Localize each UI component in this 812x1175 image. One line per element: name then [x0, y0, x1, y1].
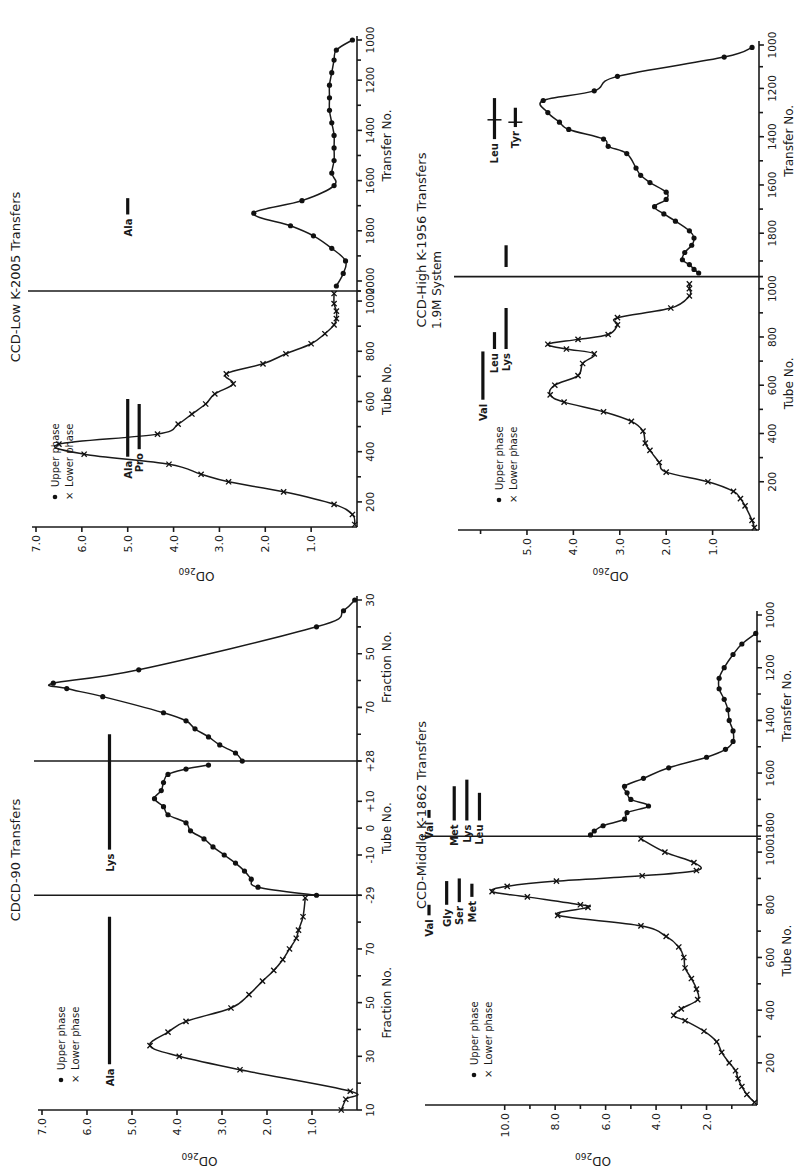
lower-phase-point	[331, 322, 336, 327]
upper-phase-point	[687, 228, 692, 233]
y-tick-label: 5.0	[126, 1118, 139, 1136]
amino-acid-label: Gly	[442, 908, 453, 927]
upper-phase-point	[183, 718, 188, 723]
lower-phase-point	[739, 1084, 744, 1089]
upper-phase-point	[545, 110, 550, 115]
upper-phase-point	[249, 877, 254, 882]
upper-phase-point	[152, 796, 157, 801]
upper-phase-point	[664, 197, 669, 202]
y-tick-label: 7.0	[36, 1118, 49, 1136]
upper-phase-point	[638, 173, 643, 178]
x-tick-label: 1200	[764, 654, 776, 681]
legend-upper-label: Upper phase	[469, 1001, 480, 1065]
upper-phase-point	[311, 233, 316, 238]
x-tick-label: 1600	[764, 760, 776, 787]
x-tick-label: 600	[764, 947, 776, 967]
lower-phase-point	[287, 946, 292, 951]
lower-phase-point	[733, 1068, 738, 1073]
upper-phase-point	[161, 804, 166, 809]
y-tick-label: 1.0	[305, 535, 318, 553]
chart-ccd-middle-k: CCD-Middle K-1862 Transfers2.04.06.08.01…	[406, 585, 812, 1175]
upper-phase-point	[592, 828, 597, 833]
upper-phase-point	[341, 608, 346, 613]
upper-phase-point	[717, 686, 722, 691]
x-tick-label: 600	[766, 375, 778, 395]
upper-phase-curve	[49, 600, 355, 761]
upper-phase-point	[704, 755, 709, 760]
y-tick-label: 2.0	[261, 1118, 274, 1136]
legend-lower-label: Lower phase	[508, 427, 519, 490]
legend-upper-label: Upper phase	[494, 426, 505, 490]
upper-phase-point	[541, 98, 546, 103]
upper-phase-point	[691, 235, 696, 240]
lower-phase-point	[640, 428, 645, 433]
upper-phase-point	[314, 624, 319, 629]
lower-phase-point	[309, 341, 314, 346]
upper-phase-point	[334, 47, 339, 52]
x-tick-label: 1000	[766, 275, 778, 302]
x-tick-label: 1800	[764, 812, 776, 839]
upper-phase-point	[255, 885, 260, 890]
y-tick-label: 10.0	[499, 1113, 512, 1138]
upper-phase-point	[622, 817, 627, 822]
legend-upper-label: Upper phase	[56, 1006, 67, 1070]
y-axis-label: OD260	[592, 566, 628, 583]
upper-phase-point	[691, 267, 696, 272]
upper-phase-point	[722, 697, 727, 702]
y-tick-label: 7.0	[30, 535, 43, 553]
upper-phase-point	[161, 710, 166, 715]
x-tick-label: 30	[364, 593, 376, 606]
upper-phase-point	[739, 641, 744, 646]
upper-phase-marker-icon	[53, 495, 58, 500]
lower-phase-point	[657, 460, 662, 465]
x-tick-label: 400	[764, 1000, 776, 1020]
chart-title: CCD-High K-1956 Transfers	[414, 152, 429, 327]
upper-phase-point	[628, 797, 633, 802]
amino-acid-label: Leu	[489, 143, 500, 163]
x-tick-label: 50	[364, 647, 376, 660]
lower-phase-marker-icon: ×	[64, 492, 75, 500]
upper-phase-point	[641, 776, 646, 781]
upper-phase-point	[206, 762, 211, 767]
upper-phase-curve	[254, 40, 353, 286]
y-tick-label: 2.0	[259, 535, 272, 553]
upper-phase-point	[717, 676, 722, 681]
x-tick-label: 30	[364, 1050, 376, 1063]
amino-acid-label: Val	[478, 404, 489, 421]
upper-phase-point	[646, 803, 651, 808]
x-tick-label: 10	[364, 1103, 376, 1116]
lower-phase-point	[552, 383, 557, 388]
amino-acid-label: Met	[449, 824, 460, 846]
lower-phase-point	[691, 860, 696, 865]
upper-phase-point	[730, 739, 735, 744]
lower-phase-point	[664, 934, 669, 939]
x-axis-label-left: Tube No.	[782, 357, 796, 410]
lower-phase-point	[687, 293, 692, 298]
y-tick-label: 3.0	[216, 1118, 229, 1136]
x-tick-label: 800	[764, 895, 776, 915]
upper-phase-point	[730, 652, 735, 657]
x-tick-label: 70	[364, 942, 376, 955]
lower-phase-point	[580, 361, 585, 366]
y-tick-label: 3.0	[213, 535, 226, 553]
upper-phase-point	[331, 158, 336, 163]
x-axis-label-right: Transfer No.	[782, 105, 796, 178]
x-tick-label: 1400	[764, 707, 776, 734]
upper-phase-point	[689, 243, 694, 248]
upper-phase-point	[687, 262, 692, 267]
lower-phase-point	[682, 1018, 687, 1023]
x-tick-label: 1600	[364, 167, 376, 194]
upper-phase-point	[331, 133, 336, 138]
amino-acid-label: Leu	[474, 824, 485, 844]
upper-phase-point	[331, 145, 336, 150]
lower-phase-point	[280, 957, 285, 962]
upper-phase-point	[100, 694, 105, 699]
upper-phase-point	[206, 734, 211, 739]
lower-phase-point	[744, 1092, 749, 1097]
legend-lower-label: Lower phase	[70, 1007, 81, 1070]
x-tick-label: 400	[364, 442, 376, 462]
x-tick-label: 1400	[766, 123, 778, 150]
upper-phase-point	[350, 37, 355, 42]
rotated-figure-page: CDCD-90 Transfers1.02.03.04.05.06.07.0OD…	[0, 0, 812, 1175]
upper-phase-point	[233, 750, 238, 755]
